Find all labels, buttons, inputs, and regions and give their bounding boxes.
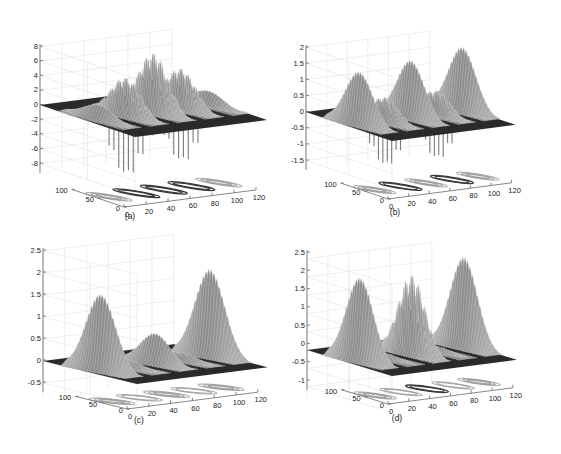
panel-b: 21.510.50-0.5-1-1.5020406080100120050100… <box>291 31 521 217</box>
z-tick-label: 8 <box>34 42 38 51</box>
z-tick-label: 0.5 <box>31 334 41 343</box>
x-tick-label: 0 <box>128 412 132 421</box>
contour-ellipse <box>436 382 470 390</box>
y-tick-label: 100 <box>55 186 68 195</box>
z-tick-label: 0.5 <box>294 91 304 100</box>
surface <box>306 47 516 164</box>
x-tick-label: 80 <box>211 199 219 208</box>
z-tick-label: 2 <box>300 43 304 52</box>
x-tick-label: 20 <box>148 409 156 418</box>
x-tick-label: 80 <box>469 191 477 200</box>
panel-d: 2.521.510.50-0.5-1020406080100120050100(… <box>292 242 522 423</box>
floor-contours <box>353 377 500 401</box>
z-tick-label: 0 <box>34 100 38 109</box>
surface <box>307 257 517 376</box>
z-tick-label: 2 <box>301 266 305 275</box>
y-tick-label: 0 <box>116 204 120 213</box>
z-tick-label: -1 <box>298 376 305 385</box>
z-axis: 21.510.50-0.5-1-1.5 <box>291 43 309 171</box>
z-tick-label: -8 <box>31 159 38 168</box>
z-tick-label: 0 <box>300 107 304 116</box>
panel-caption: (d) <box>392 413 403 423</box>
y-tick-label: 50 <box>89 400 97 409</box>
z-tick-label: 2 <box>37 268 41 277</box>
z-tick-label: 2.5 <box>31 246 41 255</box>
z-tick-label: -1.5 <box>291 156 304 165</box>
x-tick-label: 120 <box>253 193 266 202</box>
y-tick-label: 50 <box>86 195 94 204</box>
z-tick-label: 2 <box>34 85 38 94</box>
z-tick-label: -0.5 <box>292 357 305 366</box>
z-tick-label: 0.5 <box>295 321 305 330</box>
z-tick-label: 2.5 <box>295 248 305 257</box>
x-tick-label: 60 <box>449 194 457 203</box>
z-tick-label: 1 <box>301 302 305 311</box>
z-tick-label: 4 <box>34 71 38 80</box>
x-tick-label: 120 <box>508 186 521 195</box>
z-tick-label: -1 <box>297 139 304 148</box>
z-tick-label: 0 <box>301 339 305 348</box>
z-tick-label: 6 <box>34 56 38 65</box>
z-tick-label: 1.5 <box>295 284 305 293</box>
z-axis: 2.521.510.50-0.5-1 <box>292 248 310 391</box>
y-tick-label: 100 <box>325 387 338 396</box>
z-tick-label: -6 <box>31 144 38 153</box>
figure: 86420-2-4-6-8020406080100120050100(a) 21… <box>0 0 561 454</box>
panel-caption: (b) <box>390 207 401 217</box>
y-tick-label: 0 <box>119 406 123 415</box>
x-tick-label: 20 <box>408 404 416 413</box>
contour-ellipse <box>462 378 496 386</box>
y-tick-label: 0 <box>380 196 384 205</box>
z-tick-label: 0 <box>37 356 41 365</box>
x-tick-label: 60 <box>449 399 457 408</box>
x-tick-label: 100 <box>489 394 502 403</box>
x-tick-label: 40 <box>428 197 436 206</box>
y-tick-label: 100 <box>59 393 72 402</box>
x-tick-label: 100 <box>488 189 501 198</box>
x-tick-label: 100 <box>231 196 244 205</box>
x-tick-label: 120 <box>255 395 268 404</box>
z-tick-label: 1 <box>37 312 41 321</box>
panel-a: 86420-2-4-6-8020406080100120050100(a) <box>31 29 267 221</box>
x-tick-label: 100 <box>233 398 246 407</box>
x-tick-label: 20 <box>145 207 153 216</box>
surface <box>43 269 268 384</box>
z-tick-label: -4 <box>31 129 38 138</box>
contour-ellipse <box>384 388 418 396</box>
panel-caption: (c) <box>134 415 144 425</box>
x-tick-label: 40 <box>167 204 175 213</box>
x-tick-label: 60 <box>191 404 199 413</box>
panel-c: 2.521.510.50-0.5020406080100120050100(c) <box>28 234 268 425</box>
x-tick-label: 60 <box>189 201 197 210</box>
z-tick-label: 1 <box>300 75 304 84</box>
y-tick-label: 0 <box>380 401 384 410</box>
x-tick-label: 40 <box>169 406 177 415</box>
z-tick-label: -0.5 <box>28 378 41 387</box>
x-tick-label: 20 <box>407 199 415 208</box>
x-tick-label: 40 <box>428 402 436 411</box>
panel-caption: (a) <box>125 211 136 221</box>
z-tick-label: 1.5 <box>31 290 41 299</box>
z-tick-label: -0.5 <box>291 123 304 132</box>
z-tick-label: 1.5 <box>294 59 304 68</box>
z-axis: 2.521.510.50-0.5 <box>28 246 46 393</box>
z-tick-label: -2 <box>31 115 38 124</box>
x-tick-label: 80 <box>470 396 478 405</box>
y-tick-label: 50 <box>352 188 360 197</box>
y-tick-label: 100 <box>324 180 337 189</box>
x-tick-label: 80 <box>213 401 221 410</box>
x-tick-label: 120 <box>510 391 523 400</box>
